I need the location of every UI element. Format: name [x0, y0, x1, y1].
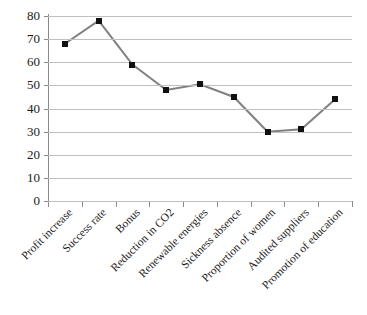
x-tick-mark	[352, 202, 353, 207]
data-point-marker	[163, 87, 169, 93]
data-point-marker	[96, 18, 102, 24]
x-tick-mark	[48, 202, 49, 207]
y-tick-mark	[44, 62, 48, 63]
y-tick-label: 30	[27, 125, 40, 138]
x-tick-mark	[149, 202, 150, 207]
x-tick-mark	[251, 202, 252, 207]
y-tick-mark	[44, 132, 48, 133]
x-tick-mark	[217, 202, 218, 207]
gridline	[48, 62, 352, 63]
y-tick-label: 20	[27, 148, 40, 161]
data-point-marker	[231, 94, 237, 100]
data-point-marker	[129, 62, 135, 68]
gridline	[48, 109, 352, 110]
gridline	[48, 201, 352, 202]
y-tick-mark	[44, 109, 48, 110]
plot-area	[48, 16, 352, 201]
y-tick-label: 60	[27, 55, 40, 68]
x-axis-category-labels: Profit increaseSuccess rateBonusReductio…	[0, 205, 367, 315]
line-chart: 01020304050607080 Profit increaseSuccess…	[0, 0, 367, 315]
gridline	[48, 178, 352, 179]
y-tick-label: 10	[27, 171, 40, 184]
y-tick-mark	[44, 85, 48, 86]
x-tick-mark	[116, 202, 117, 207]
y-tick-label: 80	[27, 9, 40, 22]
y-tick-mark	[44, 155, 48, 156]
gridline	[48, 16, 352, 17]
y-tick-label: 50	[27, 78, 40, 91]
y-tick-label: 70	[27, 32, 40, 45]
y-tick-label: 40	[27, 102, 40, 115]
gridline	[48, 132, 352, 133]
data-point-marker	[298, 126, 304, 132]
data-point-marker	[62, 41, 68, 47]
x-tick-mark	[183, 202, 184, 207]
y-tick-mark	[44, 16, 48, 17]
x-tick-mark	[318, 202, 319, 207]
x-tick-mark	[82, 202, 83, 207]
gridline	[48, 39, 352, 40]
data-point-marker	[332, 96, 338, 102]
data-point-marker	[197, 81, 203, 87]
y-tick-mark	[44, 39, 48, 40]
y-tick-mark	[44, 178, 48, 179]
x-tick-mark	[284, 202, 285, 207]
data-point-marker	[265, 129, 271, 135]
gridline	[48, 155, 352, 156]
